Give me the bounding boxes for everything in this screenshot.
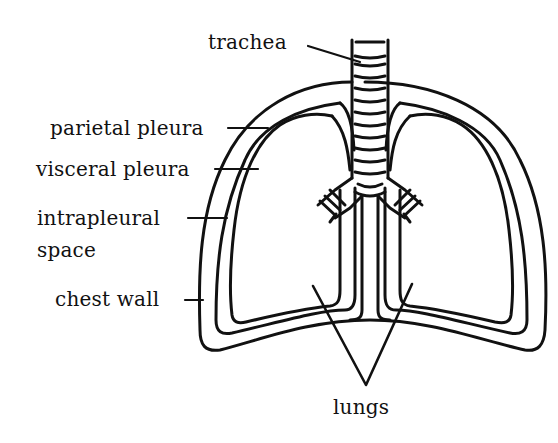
- label-trachea: trachea: [208, 30, 287, 54]
- label-visceral-pleura: visceral pleura: [36, 157, 190, 181]
- label-intrapleural: intrapleural: [37, 206, 160, 230]
- visceral-pleura-left: [230, 114, 340, 322]
- bronchi-drawing: [318, 178, 422, 222]
- label-lungs: lungs: [333, 395, 389, 419]
- label-space: space: [37, 238, 96, 262]
- chest-wall-outline: [199, 82, 546, 350]
- label-chest-wall: chest wall: [55, 287, 159, 311]
- lung-pleura-diagram: trachea parietal pleura visceral pleura …: [0, 0, 558, 443]
- label-parietal-pleura: parietal pleura: [50, 116, 204, 140]
- visceral-pleura-right: [400, 114, 513, 322]
